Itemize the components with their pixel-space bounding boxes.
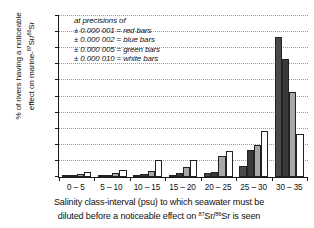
bar-red xyxy=(275,37,282,177)
x-axis-tick-labels: 0 – 55 – 1010 – 1515 – 2020 – 2525 – 303… xyxy=(58,183,307,192)
legend-item-white: ± 0.000 010 = white bars xyxy=(74,54,160,64)
x-axis-tick xyxy=(130,177,131,181)
bar-group xyxy=(201,16,236,177)
x-axis-tick xyxy=(272,177,273,181)
bar-group xyxy=(236,16,271,177)
bar-green xyxy=(183,167,190,177)
sr87-superscript-y: 87 xyxy=(26,46,32,52)
bar-red xyxy=(133,175,140,177)
x-axis-tick-label: 0 – 5 xyxy=(58,183,94,192)
bar-red xyxy=(239,166,246,177)
x-axis-tick-label: 5 – 10 xyxy=(94,183,130,192)
bar-blue xyxy=(282,59,289,177)
x-axis-tick xyxy=(165,177,166,181)
bar-green xyxy=(148,171,155,177)
legend-item-red: ± 0.000 001 = red bars xyxy=(74,26,160,36)
bar-white xyxy=(155,160,162,177)
y-axis-title-line2-post: Sr xyxy=(27,22,36,30)
x-axis-title-line2-mid: Sr/ xyxy=(204,211,215,221)
bar-blue xyxy=(247,150,254,177)
x-axis-title-line2-pre: diluted before a noticeable effect on xyxy=(58,211,199,221)
x-axis-tick-label: 10 – 15 xyxy=(129,183,165,192)
bar-blue xyxy=(105,175,112,177)
x-axis-title: Salinity class-interval (psu) to which s… xyxy=(18,196,300,222)
chart-figure: % of rivers having a noticeable effect o… xyxy=(0,0,314,228)
legend: at precisions of ± 0.000 001 = red bars … xyxy=(74,16,160,64)
bar-white xyxy=(296,134,303,177)
bar-red xyxy=(98,175,105,177)
y-axis-title: % of rivers having a noticeable effect o… xyxy=(14,0,42,146)
bar-white xyxy=(261,131,268,177)
bar-green xyxy=(112,173,119,177)
y-axis-title-line1: % of rivers having a noticeable xyxy=(14,12,23,119)
x-axis-tick-label: 20 – 25 xyxy=(200,183,236,192)
x-axis-tick-label: 25 – 30 xyxy=(236,183,272,192)
bar-green xyxy=(218,156,225,177)
bar-white xyxy=(119,170,126,177)
x-axis-tick xyxy=(236,177,237,181)
bar-red xyxy=(204,173,211,178)
x-axis-title-line2-post: Sr is seen xyxy=(221,211,260,221)
bar-blue xyxy=(70,175,77,177)
bar-green xyxy=(254,145,261,177)
x-axis-title-line1: Salinity class-interval (psu) to which s… xyxy=(54,197,264,207)
x-axis-tick xyxy=(59,177,60,181)
legend-item-green: ± 0.000 005 = green bars xyxy=(74,45,160,55)
bar-group xyxy=(272,16,307,177)
x-axis-tick xyxy=(94,177,95,181)
bar-red xyxy=(62,175,69,177)
x-axis-title-line2: diluted before a noticeable effect on 87… xyxy=(18,208,300,222)
bar-group xyxy=(165,16,200,177)
y-axis-title-line2-pre: effect on marine- xyxy=(27,51,36,110)
x-axis-tick-label: 30 – 35 xyxy=(271,183,307,192)
sr86-superscript-y: 86 xyxy=(26,30,32,36)
y-axis-title-line2-mid: Sr/ xyxy=(27,35,36,45)
legend-heading: at precisions of xyxy=(74,16,160,26)
bar-white xyxy=(226,151,233,177)
bar-red xyxy=(169,175,176,177)
bar-green xyxy=(289,92,296,177)
bar-blue xyxy=(176,173,183,177)
y-axis-title-line2: effect on marine-87Sr/86Sr xyxy=(24,0,37,146)
bar-white xyxy=(190,160,197,177)
x-axis-tick xyxy=(201,177,202,181)
bar-white xyxy=(84,172,91,177)
bar-green xyxy=(77,174,84,177)
legend-item-blue: ± 0.000 002 = blue bars xyxy=(74,35,160,45)
bar-blue xyxy=(140,174,147,177)
bar-blue xyxy=(211,172,218,177)
x-axis-tick xyxy=(307,177,308,181)
x-axis-tick-label: 15 – 20 xyxy=(165,183,201,192)
